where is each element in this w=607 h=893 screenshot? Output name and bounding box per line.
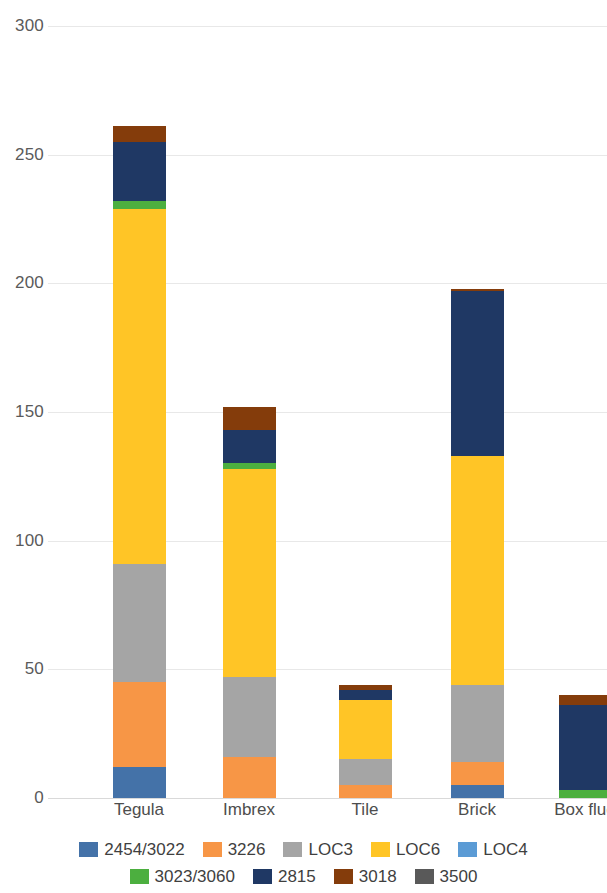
legend-item[interactable]: LOC4 bbox=[458, 840, 527, 860]
x-axis-label: Tile bbox=[305, 800, 425, 820]
bar-segment[interactable] bbox=[223, 677, 276, 757]
axis-baseline bbox=[48, 798, 607, 799]
legend-item[interactable]: 2815 bbox=[253, 867, 316, 887]
legend-label: 3018 bbox=[359, 867, 397, 887]
legend-label: 3023/3060 bbox=[155, 867, 235, 887]
bar-segment[interactable] bbox=[113, 767, 166, 798]
bar-segment[interactable] bbox=[113, 682, 166, 767]
legend-item[interactable]: 3500 bbox=[415, 867, 478, 887]
legend-item[interactable]: 3023/3060 bbox=[130, 867, 235, 887]
legend-item[interactable]: 3226 bbox=[203, 840, 266, 860]
x-axis-label: Brick bbox=[417, 800, 537, 820]
bar-segment[interactable] bbox=[223, 430, 276, 463]
bar-group[interactable] bbox=[559, 695, 607, 798]
legend-label: 3226 bbox=[228, 840, 266, 860]
y-tick-label: 300 bbox=[0, 16, 44, 36]
bar-segment[interactable] bbox=[113, 142, 166, 201]
legend-swatch-icon bbox=[79, 842, 98, 857]
legend-label: 2815 bbox=[278, 867, 316, 887]
bar-group[interactable] bbox=[339, 685, 392, 798]
bar-segment[interactable] bbox=[339, 759, 392, 785]
x-axis-label: Imbrex bbox=[189, 800, 309, 820]
bar-segment[interactable] bbox=[223, 757, 276, 798]
bar-series-layer bbox=[48, 26, 607, 798]
bar-segment[interactable] bbox=[113, 126, 166, 141]
bar-segment[interactable] bbox=[559, 695, 607, 705]
legend-item[interactable]: LOC6 bbox=[371, 840, 440, 860]
legend-label: LOC6 bbox=[396, 840, 440, 860]
legend-swatch-icon bbox=[334, 869, 353, 884]
bar-segment[interactable] bbox=[113, 564, 166, 682]
bar-group[interactable] bbox=[113, 126, 166, 798]
x-axis-label: Tegula bbox=[79, 800, 199, 820]
legend-label: LOC3 bbox=[308, 840, 352, 860]
y-tick-label: 100 bbox=[0, 531, 44, 551]
x-axis-category-labels: TegulaImbrexTileBrickBox flue bbox=[48, 800, 607, 830]
bar-segment[interactable] bbox=[339, 785, 392, 798]
legend-label: LOC4 bbox=[483, 840, 527, 860]
legend-item[interactable]: LOC3 bbox=[283, 840, 352, 860]
y-tick-label: 200 bbox=[0, 273, 44, 293]
legend-swatch-icon bbox=[371, 842, 390, 857]
bar-segment[interactable] bbox=[451, 785, 504, 798]
bar-segment[interactable] bbox=[113, 201, 166, 209]
bar-segment[interactable] bbox=[451, 685, 504, 762]
plot-area: 050100150200250300 bbox=[48, 26, 607, 798]
bar-segment[interactable] bbox=[339, 690, 392, 700]
stacked-bar-chart: 050100150200250300 TegulaImbrexTileBrick… bbox=[0, 0, 607, 893]
y-tick-label: 150 bbox=[0, 402, 44, 422]
legend-swatch-icon bbox=[458, 842, 477, 857]
legend-swatch-icon bbox=[253, 869, 272, 884]
bar-segment[interactable] bbox=[339, 700, 392, 759]
bar-segment[interactable] bbox=[223, 407, 276, 430]
bar-segment[interactable] bbox=[559, 790, 607, 798]
legend-swatch-icon bbox=[130, 869, 149, 884]
legend-swatch-icon bbox=[415, 869, 434, 884]
legend-item[interactable]: 3018 bbox=[334, 867, 397, 887]
bar-segment[interactable] bbox=[559, 705, 607, 790]
bar-segment[interactable] bbox=[451, 762, 504, 785]
legend-row: 2454/30223226LOC3LOC6LOC4 bbox=[0, 836, 607, 863]
legend-swatch-icon bbox=[203, 842, 222, 857]
y-tick-label: 50 bbox=[0, 659, 44, 679]
bar-group[interactable] bbox=[451, 289, 504, 798]
legend-item[interactable]: 2454/3022 bbox=[79, 840, 184, 860]
bar-segment[interactable] bbox=[451, 291, 504, 456]
bar-segment[interactable] bbox=[451, 456, 504, 685]
bar-group[interactable] bbox=[223, 407, 276, 798]
bar-segment[interactable] bbox=[223, 469, 276, 677]
legend-label: 2454/3022 bbox=[104, 840, 184, 860]
y-tick-label: 250 bbox=[0, 145, 44, 165]
legend-swatch-icon bbox=[283, 842, 302, 857]
legend-label: 3500 bbox=[440, 867, 478, 887]
x-axis-label: Box flue bbox=[525, 800, 607, 820]
bar-segment[interactable] bbox=[113, 209, 166, 564]
chart-legend: 2454/30223226LOC3LOC6LOC43023/3060281530… bbox=[0, 836, 607, 890]
legend-row: 3023/3060281530183500 bbox=[0, 863, 607, 890]
y-tick-label: 0 bbox=[0, 788, 44, 808]
